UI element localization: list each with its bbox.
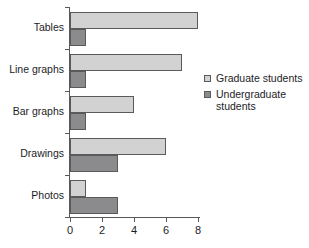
bar-line-graphs-undergraduate — [70, 71, 86, 88]
bar-group-photos — [70, 175, 199, 217]
plot-area — [70, 7, 199, 217]
x-axis-tick — [198, 217, 199, 222]
y-axis-label-photos: Photos — [0, 189, 64, 201]
bar-drawings-graduate — [70, 138, 166, 155]
x-axis-label-6: 6 — [156, 224, 176, 236]
x-axis-tick — [166, 217, 167, 222]
bar-photos-graduate — [70, 180, 86, 197]
legend-label-graduate: Graduate students — [216, 72, 302, 84]
bar-group-bar-graphs — [70, 91, 199, 133]
x-axis-label-2: 2 — [92, 224, 112, 236]
legend-label-undergraduate: Undergraduate students — [216, 88, 307, 112]
bar-bar-graphs-undergraduate — [70, 113, 86, 130]
legend-item-graduate: Graduate students — [204, 72, 307, 84]
bar-group-drawings — [70, 133, 199, 175]
bar-tables-undergraduate — [70, 29, 86, 46]
bar-bar-graphs-graduate — [70, 96, 134, 113]
legend-swatch-undergraduate-icon — [204, 91, 211, 98]
bar-line-graphs-graduate — [70, 54, 182, 71]
x-axis-label-8: 8 — [188, 224, 208, 236]
x-axis-label-4: 4 — [124, 224, 144, 236]
legend-swatch-graduate-icon — [204, 75, 211, 82]
bar-group-tables — [70, 7, 199, 49]
bar-drawings-undergraduate — [70, 155, 118, 172]
x-axis-tick — [70, 217, 71, 222]
x-axis-tick — [134, 217, 135, 222]
y-axis-label-tables: Tables — [0, 21, 64, 33]
y-axis-labels: Tables Line graphs Bar graphs Drawings P… — [0, 0, 64, 248]
y-axis-label-bar-graphs: Bar graphs — [0, 105, 64, 117]
legend-item-undergraduate: Undergraduate students — [204, 88, 307, 112]
bar-group-line-graphs — [70, 49, 199, 91]
bar-tables-graduate — [70, 12, 198, 29]
x-axis-tick — [102, 217, 103, 222]
x-axis-label-0: 0 — [60, 224, 80, 236]
bar-photos-undergraduate — [70, 197, 118, 214]
bar-chart: Tables Line graphs Bar graphs Drawings P… — [0, 0, 309, 248]
y-axis-label-line-graphs: Line graphs — [0, 63, 64, 75]
chart-legend: Graduate students Undergraduate students — [204, 72, 307, 116]
y-axis-label-drawings: Drawings — [0, 147, 64, 159]
